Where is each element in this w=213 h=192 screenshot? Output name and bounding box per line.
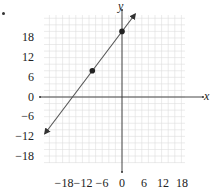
y-tick-label: 18 [6,31,34,43]
grid-lines [44,15,185,163]
x-axis-label: x [204,89,209,104]
x-tick-label: 18 [170,177,194,189]
y-tick-label: 6 [6,71,34,83]
y-tick-label: −18 [6,150,34,162]
x-tick-label: 0 [110,177,134,189]
y-axis-label: y [118,0,123,14]
y-tick-label: 0 [6,91,34,103]
y-tick-label: −6 [6,110,34,122]
y-tick-label: 12 [6,51,34,63]
coordinate-plane-figure: y x 18 12 6 0 −6 −12 −18 −18 −12 −6 0 6 … [0,0,213,192]
y-tick-label: −12 [6,130,34,142]
